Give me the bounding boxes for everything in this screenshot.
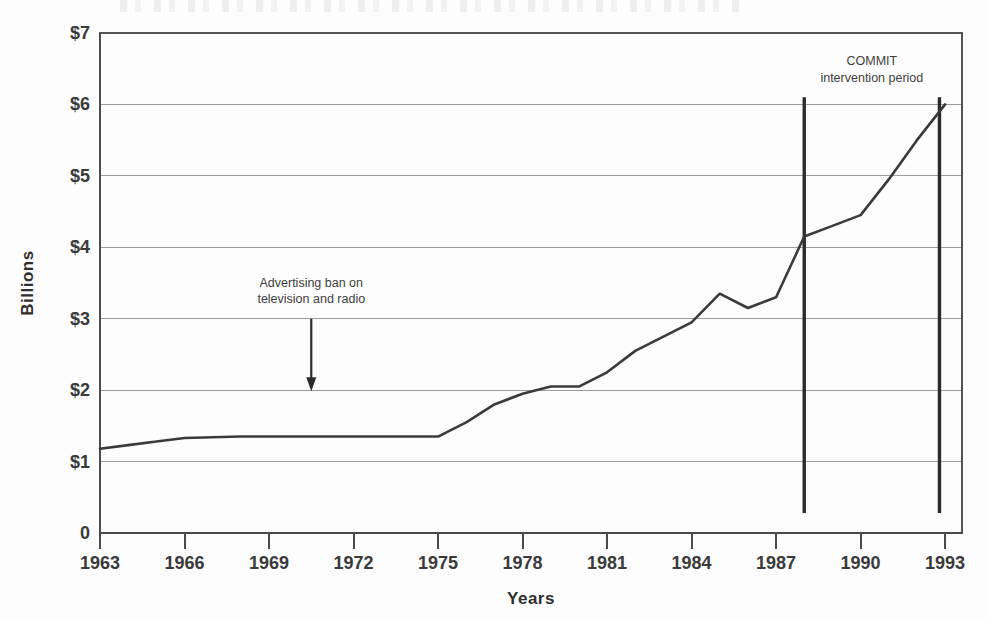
x-tick-label: 1981	[587, 553, 627, 574]
annotation-advertising-ban-line1: Advertising ban on	[201, 275, 421, 292]
x-tick-label: 1966	[164, 553, 204, 574]
x-tick-label: 1972	[333, 553, 373, 574]
y-tick-label: $7	[38, 23, 90, 44]
y-axis-title: Billions	[18, 233, 38, 333]
x-tick-label: 1969	[249, 553, 289, 574]
annotation-commit-label: COMMIT intervention period	[762, 53, 982, 86]
x-tick-label: 1990	[841, 553, 881, 574]
x-tick-label: 1987	[756, 553, 796, 574]
y-tick-label: $4	[38, 237, 90, 258]
annotation-commit-line1: COMMIT	[762, 53, 982, 70]
y-tick-label: 0	[38, 523, 90, 544]
y-tick-label: $6	[38, 94, 90, 115]
y-tick-label: $1	[38, 451, 90, 472]
annotation-commit-line2: intervention period	[762, 70, 982, 87]
y-tick-label: $2	[38, 380, 90, 401]
annotation-advertising-ban-label: Advertising ban on television and radio	[201, 275, 421, 308]
chart-figure: 0$1$2$3$4$5$6$7 196319661969197219751978…	[0, 0, 987, 619]
x-axis-title: Years	[431, 589, 631, 609]
x-tick-label: 1978	[503, 553, 543, 574]
y-tick-label: $5	[38, 165, 90, 186]
line-chart-plot	[0, 0, 987, 619]
x-tick-label: 1963	[80, 553, 120, 574]
y-tick-label: $3	[38, 308, 90, 329]
x-tick-label: 1993	[925, 553, 965, 574]
annotation-advertising-ban-line2: television and radio	[201, 291, 421, 308]
x-tick-label: 1975	[418, 553, 458, 574]
x-axis-ticks	[100, 533, 945, 549]
x-tick-label: 1984	[672, 553, 712, 574]
